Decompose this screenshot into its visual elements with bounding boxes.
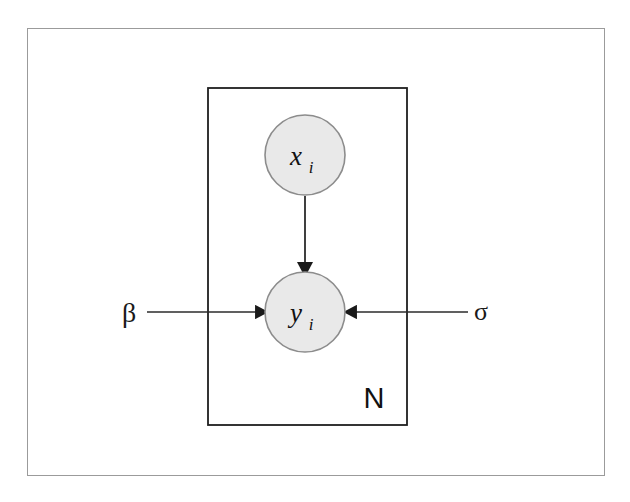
node-x-subscript: i xyxy=(309,158,314,177)
node-y-subscript: i xyxy=(309,315,314,334)
plate-index-label: N xyxy=(364,382,385,414)
node-y-circle[interactable] xyxy=(265,272,345,352)
node-y-label: y xyxy=(287,298,302,328)
node-x-label: x xyxy=(289,141,302,171)
parameter-sigma-label: σ xyxy=(474,297,488,326)
parameter-beta-label: β xyxy=(122,297,136,328)
figure-root: x i y i β σ N xyxy=(0,0,630,502)
node-x-circle[interactable] xyxy=(265,115,345,195)
graphical-model-canvas: x i y i β σ N xyxy=(0,0,630,502)
